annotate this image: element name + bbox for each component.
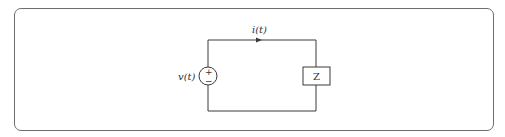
- impedance-label: Z: [313, 71, 320, 82]
- current-label: i(t): [252, 24, 267, 35]
- current-arrow-icon: [256, 38, 262, 43]
- wire-bottom: [208, 85, 316, 111]
- wire-top-left: [208, 40, 316, 67]
- source-label: v(t): [178, 71, 196, 82]
- polarity-minus: −: [205, 76, 213, 86]
- circuit-diagram: + − v(t) i(t) Z: [0, 0, 505, 137]
